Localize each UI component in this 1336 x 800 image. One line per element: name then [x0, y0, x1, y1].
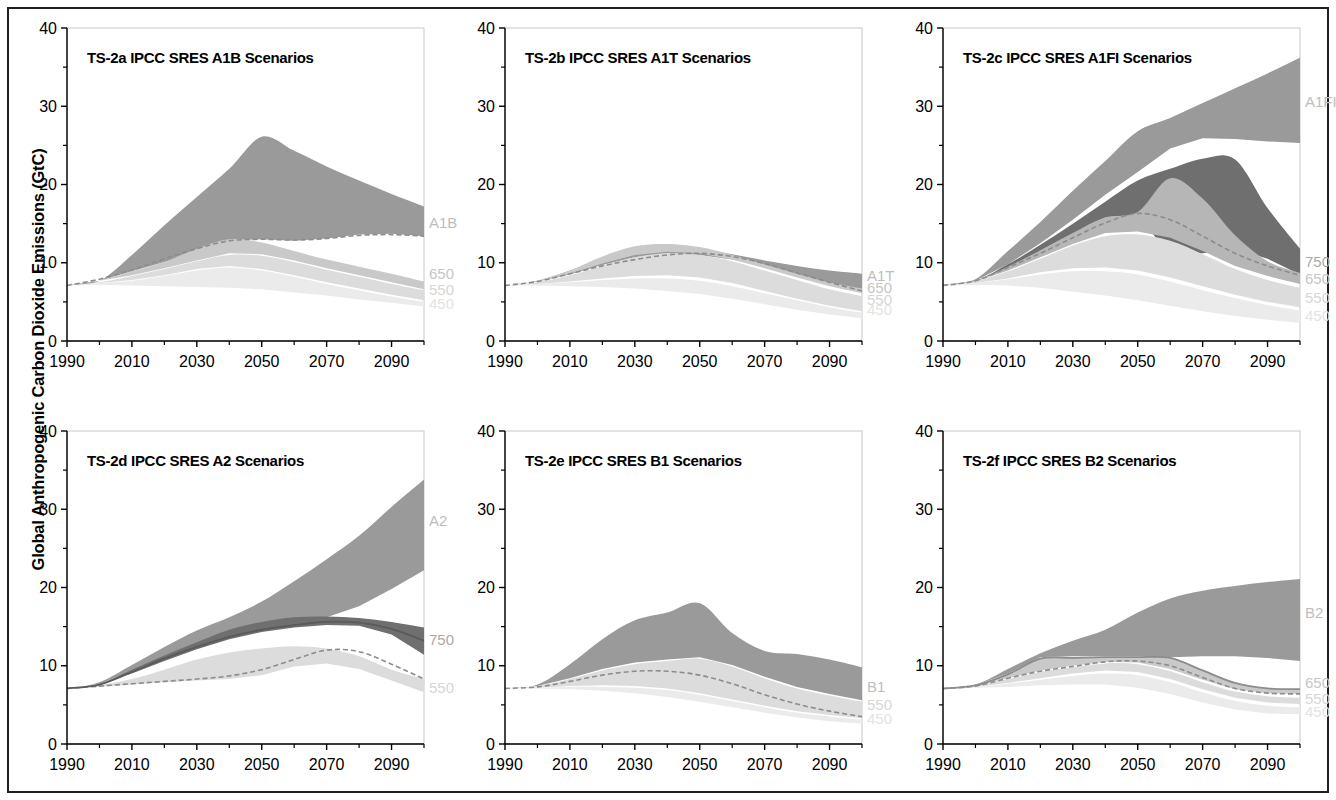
x-tick-label-ts2c-2010: 2010 — [990, 353, 1026, 370]
panel-ts2f: 010203040199020102030205020702090B265055… — [0, 0, 1336, 800]
band-ts2c-4 — [943, 271, 1300, 323]
x-tick-label-ts2d-2010: 2010 — [114, 756, 150, 773]
line-ts2d-0 — [67, 649, 424, 688]
x-tick-label-ts2a-1990: 1990 — [49, 353, 85, 370]
x-tick-label-ts2a-2030: 2030 — [179, 353, 215, 370]
line-ts2e-0 — [505, 671, 862, 717]
side-label-ts2c-550: 550 — [1305, 289, 1330, 306]
plot-frame-ts2f — [943, 431, 1300, 744]
x-tick-label-ts2b-2050: 2050 — [682, 353, 718, 370]
x-tick-label-ts2b-2010: 2010 — [552, 353, 588, 370]
band-ts2c-1 — [943, 155, 1300, 285]
y-tick-label-ts2b-10: 10 — [477, 254, 495, 271]
panel-grid: 010203040199020102030205020702090A1FI750… — [0, 0, 1336, 800]
x-tick-label-ts2c-2030: 2030 — [1055, 353, 1091, 370]
y-tick-label-ts2d-30: 30 — [39, 501, 57, 518]
x-tick-label-ts2a-2050: 2050 — [244, 353, 280, 370]
y-tick-label-ts2c-10: 10 — [915, 254, 933, 271]
band-ts2b-1 — [505, 244, 862, 293]
x-tick-label-ts2d-2030: 2030 — [179, 756, 215, 773]
panel-title-ts2a: TS-2a IPCC SRES A1B Scenarios — [87, 49, 314, 66]
side-label-ts2c-750: 750 — [1305, 253, 1330, 270]
side-label-ts2a-450: 450 — [429, 295, 454, 312]
plot-area-ts2a: 010203040199020102030205020702090A1B6505… — [0, 0, 1336, 800]
x-tick-label-ts2e-2050: 2050 — [682, 756, 718, 773]
y-tick-label-ts2b-40: 40 — [477, 20, 495, 37]
line-ts2d-1 — [67, 622, 424, 689]
band-ts2d-2 — [67, 646, 424, 692]
side-label-ts2f-550: 550 — [1305, 690, 1330, 707]
y-tick-label-ts2a-30: 30 — [39, 98, 57, 115]
side-label-ts2f-B2: B2 — [1305, 604, 1323, 621]
x-tick-label-ts2c-2090: 2090 — [1250, 353, 1286, 370]
y-tick-label-ts2c-20: 20 — [915, 176, 933, 193]
y-tick-label-ts2d-10: 10 — [39, 657, 57, 674]
band-ts2b-3 — [505, 278, 862, 318]
x-tick-label-ts2d-1990: 1990 — [49, 756, 85, 773]
y-tick-label-ts2e-10: 10 — [477, 657, 495, 674]
y-tick-label-ts2c-40: 40 — [915, 20, 933, 37]
line-ts2f-0 — [943, 661, 1300, 694]
plot-frame-ts2a — [67, 28, 424, 341]
panel-ts2d: 010203040199020102030205020702090A275055… — [0, 0, 1336, 800]
side-label-ts2f-450: 450 — [1305, 703, 1330, 720]
band-ts2b-2 — [505, 253, 862, 311]
y-tick-label-ts2b-30: 30 — [477, 98, 495, 115]
band-ts2e-2 — [505, 687, 862, 724]
side-label-ts2c-450: 450 — [1305, 307, 1330, 324]
x-tick-label-ts2f-2030: 2030 — [1055, 756, 1091, 773]
x-tick-label-ts2b-2030: 2030 — [617, 353, 653, 370]
x-tick-label-ts2e-2010: 2010 — [552, 756, 588, 773]
x-tick-label-ts2c-2070: 2070 — [1185, 353, 1221, 370]
band-ts2f-0 — [943, 579, 1300, 689]
y-tick-label-ts2b-20: 20 — [477, 176, 495, 193]
plot-area-ts2d: 010203040199020102030205020702090A275055… — [0, 0, 1336, 800]
x-tick-label-ts2f-2050: 2050 — [1120, 756, 1156, 773]
x-tick-label-ts2e-2030: 2030 — [617, 756, 653, 773]
x-tick-label-ts2c-1990: 1990 — [925, 353, 961, 370]
y-tick-label-ts2f-20: 20 — [915, 579, 933, 596]
side-label-ts2a-550: 550 — [429, 281, 454, 298]
band-ts2e-1 — [505, 659, 862, 719]
band-ts2f-2 — [943, 663, 1300, 704]
panel-title-ts2d: TS-2d IPCC SRES A2 Scenarios — [87, 452, 304, 469]
x-tick-label-ts2e-1990: 1990 — [487, 756, 523, 773]
y-tick-label-ts2d-40: 40 — [39, 423, 57, 440]
y-tick-label-ts2e-0: 0 — [486, 736, 495, 753]
band-ts2e-0 — [505, 602, 862, 700]
plot-area-ts2b: 010203040199020102030205020702090A1T6505… — [0, 0, 1336, 800]
side-label-ts2c-650: 650 — [1305, 270, 1330, 287]
y-tick-label-ts2e-20: 20 — [477, 579, 495, 596]
panel-title-ts2b: TS-2b IPCC SRES A1T Scenarios — [525, 49, 751, 66]
y-tick-label-ts2d-20: 20 — [39, 579, 57, 596]
side-label-ts2e-450: 450 — [867, 710, 892, 727]
line-ts2f-1 — [943, 657, 1300, 689]
band-ts2c-2 — [943, 178, 1300, 285]
band-ts2c-0 — [943, 58, 1300, 286]
band-ts2a-3 — [67, 267, 424, 306]
y-tick-label-ts2f-40: 40 — [915, 423, 933, 440]
line-ts2a-0 — [67, 235, 424, 286]
panel-title-ts2c: TS-2c IPCC SRES A1FI Scenarios — [963, 49, 1192, 66]
side-label-ts2a-A1B: A1B — [429, 214, 457, 231]
figure-root: Global Anthropogenic Carbon Dioxide Emis… — [0, 0, 1336, 800]
side-label-ts2c-A1FI: A1FI — [1305, 93, 1336, 110]
plot-area-ts2f: 010203040199020102030205020702090B265055… — [0, 0, 1336, 800]
x-tick-label-ts2b-1990: 1990 — [487, 353, 523, 370]
y-tick-label-ts2a-40: 40 — [39, 20, 57, 37]
y-tick-label-ts2f-0: 0 — [924, 736, 933, 753]
x-tick-label-ts2d-2050: 2050 — [244, 756, 280, 773]
side-label-ts2a-650: 650 — [429, 265, 454, 282]
plot-area-ts2e: 010203040199020102030205020702090B155045… — [0, 0, 1336, 800]
band-ts2d-1 — [67, 616, 424, 688]
band-ts2b-0 — [505, 247, 862, 292]
x-tick-label-ts2d-2070: 2070 — [309, 756, 345, 773]
line-ts2c-0 — [943, 213, 1300, 285]
band-ts2c-3 — [943, 234, 1300, 307]
panel-ts2e: 010203040199020102030205020702090B155045… — [0, 0, 1336, 800]
plot-area-ts2c: 010203040199020102030205020702090A1FI750… — [0, 0, 1336, 800]
x-tick-label-ts2e-2070: 2070 — [747, 756, 783, 773]
y-tick-label-ts2a-20: 20 — [39, 176, 57, 193]
y-tick-label-ts2e-30: 30 — [477, 501, 495, 518]
panel-ts2b: 010203040199020102030205020702090A1T6505… — [0, 0, 1336, 800]
